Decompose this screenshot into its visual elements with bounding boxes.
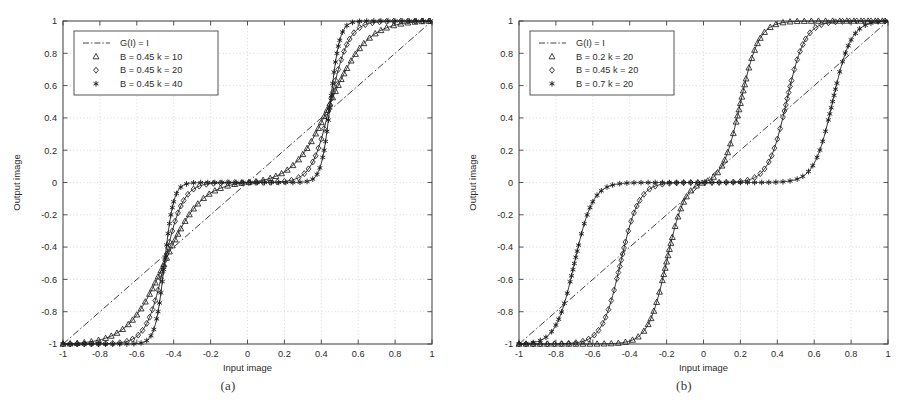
svg-text:0.2: 0.2 [500,146,513,156]
svg-text:-0.8: -0.8 [548,349,564,359]
svg-text:0.6: 0.6 [352,349,365,359]
svg-text:B = 0.45 k = 20: B = 0.45 k = 20 [576,65,638,75]
svg-text:-0.4: -0.4 [41,242,57,252]
svg-text:-0.2: -0.2 [203,349,219,359]
svg-text:0.4: 0.4 [44,113,57,123]
svg-text:0.2: 0.2 [278,349,291,359]
svg-text:-0.2: -0.2 [659,349,675,359]
svg-text:0.2: 0.2 [44,146,57,156]
svg-text:0.4: 0.4 [315,349,328,359]
svg-text:-0.2: -0.2 [41,210,57,220]
svg-text:-1: -1 [515,349,523,359]
svg-text:0: 0 [701,349,706,359]
svg-text:0.6: 0.6 [808,349,821,359]
svg-text:0: 0 [508,178,513,188]
svg-text:0: 0 [52,178,57,188]
svg-text:-0.8: -0.8 [497,307,513,317]
legend: G(I) = IB = 0.2 k = 20B = 0.45 k = 20B =… [530,31,674,95]
panel-b-caption: (b) [456,378,912,394]
svg-text:-0.8: -0.8 [92,349,108,359]
svg-text:0.4: 0.4 [771,349,784,359]
svg-text:1: 1 [52,16,57,26]
y-axis-title: Output image [11,154,22,210]
svg-text:0: 0 [245,349,250,359]
svg-text:1: 1 [885,349,890,359]
svg-text:-0.4: -0.4 [622,349,638,359]
x-axis-title: Input image [223,362,272,373]
figure-canvas: -1-0.8-0.6-0.4-0.200.20.40.60.81-1-0.8-0… [0,0,912,415]
svg-text:B = 0.45 k = 10: B = 0.45 k = 10 [120,52,182,62]
x-axis-title: Input image [679,362,728,373]
svg-text:0.4: 0.4 [500,113,513,123]
svg-text:-1: -1 [505,339,513,349]
plot-area-b: -1-0.8-0.6-0.4-0.200.20.40.60.81-1-0.8-0… [456,0,912,415]
svg-text:1: 1 [429,349,434,359]
panel-b: -1-0.8-0.6-0.4-0.200.20.40.60.81-1-0.8-0… [456,0,912,415]
svg-text:-0.4: -0.4 [497,242,513,252]
svg-text:G(I) = I: G(I) = I [120,38,149,48]
svg-text:-1: -1 [59,349,67,359]
svg-text:0.8: 0.8 [500,49,513,59]
panel-a-caption: (a) [0,378,456,394]
svg-text:0.6: 0.6 [44,81,57,91]
svg-text:-0.4: -0.4 [166,349,182,359]
svg-text:0.6: 0.6 [500,81,513,91]
plot-area-a: -1-0.8-0.6-0.4-0.200.20.40.60.81-1-0.8-0… [0,0,456,415]
svg-text:B = 0.7 k = 20: B = 0.7 k = 20 [576,79,633,89]
svg-text:-1: -1 [49,339,57,349]
svg-text:0.8: 0.8 [44,49,57,59]
svg-text:-0.6: -0.6 [585,349,601,359]
panel-a: -1-0.8-0.6-0.4-0.200.20.40.60.81-1-0.8-0… [0,0,456,415]
svg-text:B = 0.2 k = 20: B = 0.2 k = 20 [576,52,633,62]
svg-text:G(I) = I: G(I) = I [576,38,605,48]
svg-text:0.2: 0.2 [734,349,747,359]
svg-text:0.8: 0.8 [389,349,402,359]
svg-text:-0.6: -0.6 [497,275,513,285]
svg-text:-0.6: -0.6 [129,349,145,359]
legend: G(I) = IB = 0.45 k = 10B = 0.45 k = 20B … [74,31,218,95]
y-axis-title: Output image [467,154,478,210]
svg-text:-0.6: -0.6 [41,275,57,285]
svg-text:B = 0.45 k = 20: B = 0.45 k = 20 [120,65,182,75]
svg-text:B = 0.45 k = 40: B = 0.45 k = 40 [120,79,182,89]
svg-text:-0.8: -0.8 [41,307,57,317]
svg-text:1: 1 [508,16,513,26]
svg-text:-0.2: -0.2 [497,210,513,220]
svg-text:0.8: 0.8 [845,349,858,359]
